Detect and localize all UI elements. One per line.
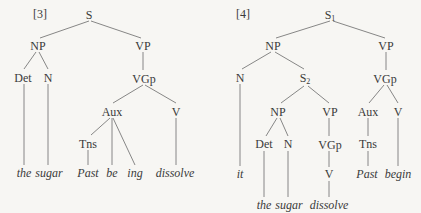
node-S2: S2 [300, 71, 311, 86]
edge [242, 52, 271, 69]
edge [24, 52, 36, 69]
node-V2: V [325, 167, 334, 181]
node-Det: Det [255, 137, 273, 151]
word: begin [385, 167, 412, 181]
tree-3: [3] S NP VP Det N VGp Aux V Tns the suga… [14, 7, 195, 180]
edge [281, 86, 304, 103]
node-S: S [86, 8, 93, 22]
node-N2: N [284, 137, 293, 151]
tree-4: [4] S1 NP VP N S2 VGp NP VP Aux V Det N [236, 7, 412, 212]
node-VP: VP [135, 39, 151, 53]
syntax-tree-diagram: [3] S NP VP Det N VGp Aux V Tns the suga… [0, 0, 421, 213]
word: ing [127, 166, 142, 180]
word: be [106, 166, 118, 180]
word: sugar [275, 198, 303, 212]
edge [369, 85, 384, 103]
node-VGp: VGp [132, 72, 155, 86]
node-Aux: Aux [358, 105, 379, 119]
node-V: V [394, 105, 403, 119]
word: Past [355, 167, 378, 181]
node-N: N [44, 71, 53, 85]
edge [113, 118, 135, 165]
word: it [237, 167, 244, 181]
node-Tns: Tns [79, 137, 97, 151]
edge [266, 118, 277, 136]
word: dissolve [156, 166, 195, 180]
edge [91, 21, 141, 38]
node-Tns: Tns [359, 137, 377, 151]
word: dissolve [310, 198, 349, 212]
node-NP: NP [265, 39, 281, 53]
edge [113, 85, 143, 103]
node-N: N [236, 71, 245, 85]
node-VGp: VGp [373, 72, 396, 86]
node-VP2: VP [322, 105, 338, 119]
edge [145, 85, 176, 103]
node-Aux: Aux [102, 105, 123, 119]
edge [276, 21, 330, 38]
edge [280, 118, 288, 136]
node-Det: Det [14, 71, 32, 85]
edge [39, 52, 48, 69]
node-NP: NP [30, 39, 46, 53]
node-VP: VP [378, 39, 394, 53]
edge [91, 118, 110, 135]
word: Past [76, 166, 99, 180]
word: the [257, 198, 272, 212]
word: sugar [35, 166, 63, 180]
edge [333, 21, 385, 38]
edge [275, 52, 304, 69]
node-VGp2: VGp [318, 138, 341, 152]
edge [40, 21, 89, 38]
node-NP2: NP [270, 105, 286, 119]
word: the [17, 166, 32, 180]
node-S1: S1 [325, 8, 336, 23]
tree-number: [4] [236, 7, 250, 21]
edge [387, 85, 398, 103]
node-V: V [172, 105, 181, 119]
edge [308, 86, 329, 103]
tree-number: [3] [33, 7, 47, 21]
